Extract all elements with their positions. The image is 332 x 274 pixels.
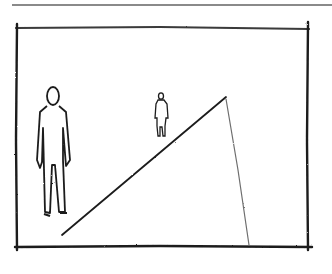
receding-ground-line	[226, 99, 249, 245]
diagonal-ground-line	[62, 97, 226, 235]
body-outline	[37, 106, 70, 213]
background-person	[155, 93, 168, 136]
frame-left	[16, 24, 17, 250]
body-outline	[155, 100, 168, 136]
frame-right	[307, 22, 308, 250]
frame-top	[16, 27, 309, 29]
frame-bottom	[15, 246, 312, 247]
perspective-sketch	[0, 0, 332, 274]
ground-lines	[62, 97, 249, 245]
feet	[44, 213, 67, 216]
foreground-person	[37, 87, 70, 216]
